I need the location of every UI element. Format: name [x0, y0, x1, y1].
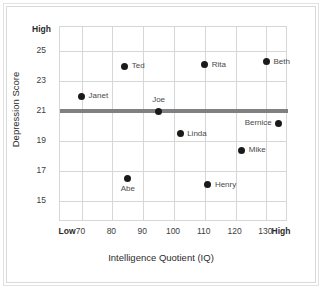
data-point-label: Abe: [121, 185, 135, 193]
data-point[interactable]: [238, 147, 245, 154]
x-tick-label: 110: [197, 226, 211, 236]
gridline-horizontal: [60, 171, 286, 172]
scatter-plot-figure: JanetTedAbeJoeLindaRitaHenryMikeBethBern…: [0, 0, 322, 289]
y-tick-label: 17: [37, 165, 46, 175]
data-point[interactable]: [263, 58, 270, 65]
y-tick-label: 15: [37, 195, 46, 205]
data-point-label: Beth: [273, 58, 289, 66]
data-point-label: Rita: [212, 61, 226, 69]
data-point[interactable]: [78, 93, 85, 100]
data-point-label: Linda: [187, 130, 207, 138]
y-tick-label: 25: [37, 45, 46, 55]
data-point[interactable]: [201, 61, 208, 68]
gridline-vertical: [143, 27, 144, 220]
gridline-vertical: [236, 27, 237, 220]
data-point[interactable]: [204, 181, 211, 188]
x-tick-label: 130: [258, 226, 272, 236]
x-axis-high-label: High: [272, 226, 291, 236]
plot-area: JanetTedAbeJoeLindaRitaHenryMikeBethBern…: [59, 26, 287, 221]
data-point-label: Henry: [215, 181, 236, 189]
y-axis-title: Depression Score: [10, 50, 21, 170]
gridline-vertical: [112, 27, 113, 220]
data-point-label: Bernice: [245, 119, 272, 127]
x-tick-label: 100: [166, 226, 180, 236]
gridline-horizontal: [60, 51, 286, 52]
gridline-vertical: [82, 27, 83, 220]
data-point-label: Ted: [132, 62, 145, 70]
gridline-vertical: [174, 27, 175, 220]
x-tick-label: 70: [76, 226, 85, 236]
x-tick-label: 120: [228, 226, 242, 236]
x-tick-label: 90: [137, 226, 146, 236]
y-axis-tick-labels: 151719212325High: [0, 26, 55, 221]
gridline-horizontal: [60, 141, 286, 142]
reference-line: [60, 109, 288, 113]
y-axis-high-label: High: [32, 24, 51, 34]
data-point[interactable]: [275, 120, 282, 127]
x-axis-low-label: Low: [59, 226, 76, 236]
gridline-horizontal: [60, 201, 286, 202]
data-point-label: Joe: [152, 96, 165, 104]
x-axis-title: Intelligence Quotient (IQ): [0, 252, 322, 263]
y-tick-label: 21: [37, 105, 46, 115]
data-point[interactable]: [155, 108, 162, 115]
gridline-vertical: [205, 27, 206, 220]
data-point-label: Mike: [249, 146, 266, 154]
data-point[interactable]: [124, 175, 131, 182]
data-point[interactable]: [177, 130, 184, 137]
x-tick-label: 80: [107, 226, 116, 236]
y-tick-label: 19: [37, 135, 46, 145]
data-point-label: Janet: [89, 92, 109, 100]
data-point[interactable]: [121, 63, 128, 70]
y-tick-label: 23: [37, 75, 46, 85]
gridline-horizontal: [60, 81, 286, 82]
x-axis-tick-labels: 708090100110120130LowHigh: [0, 226, 322, 240]
